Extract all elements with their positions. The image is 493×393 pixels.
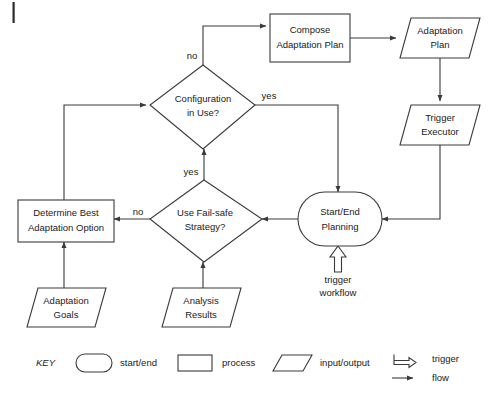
node-start-end-planning-line1: Start/End xyxy=(320,206,360,217)
node-adaptation-plan-line2: Plan xyxy=(430,39,449,50)
key-block-arrow-icon xyxy=(394,355,416,368)
edge-label-failsafe-no: no xyxy=(133,206,144,217)
edge-label-config-no: no xyxy=(187,50,198,61)
key-rectangle-icon xyxy=(178,355,212,371)
node-trigger-executor-line2: Executor xyxy=(421,126,459,137)
edge-trigger-executor-to-planning xyxy=(382,145,440,219)
node-analysis-results-line2: Results xyxy=(185,309,217,320)
node-compose-adaptation-plan-line2: Adaptation Plan xyxy=(276,39,343,50)
key-item-label-input-output: input/output xyxy=(320,357,370,368)
key-item-label-start-end: start/end xyxy=(120,357,157,368)
trigger-block-arrow-icon xyxy=(330,246,346,272)
key-item-label-process: process xyxy=(222,357,256,368)
trigger-annotation-line1: trigger xyxy=(325,274,352,285)
key-rounded-rect-icon xyxy=(76,354,112,372)
node-determine-best-adaptation-option-line1: Determine Best xyxy=(33,207,99,218)
edge-config-yes-to-planning xyxy=(255,105,338,192)
node-compose-adaptation-plan-line1: Compose xyxy=(290,24,331,35)
node-configuration-in-use-line2: in Use? xyxy=(187,107,219,118)
node-analysis-results-line1: Analysis xyxy=(183,295,219,306)
node-use-failsafe-strategy-line1: Use Fail-safe xyxy=(177,207,233,218)
key-parallelogram-icon xyxy=(273,355,312,371)
node-determine-best-adaptation-option-line2: Adaptation Option xyxy=(28,222,104,233)
node-trigger-executor-line1: Trigger xyxy=(425,112,455,123)
node-start-end-planning[interactable] xyxy=(298,192,382,246)
edge-determine-to-config xyxy=(64,105,146,200)
node-configuration-in-use-line1: Configuration xyxy=(175,93,232,104)
key-title: KEY xyxy=(36,357,56,368)
node-adaptation-plan-line1: Adaptation xyxy=(417,25,462,36)
trigger-annotation-line2: workflow xyxy=(319,287,357,298)
key-item-label-trigger: trigger xyxy=(432,353,459,364)
edge-label-failsafe-yes: yes xyxy=(184,166,199,177)
flowchart-canvas: Compose Adaptation Plan Adaptation Plan … xyxy=(0,0,493,393)
edge-config-no-to-compose xyxy=(203,26,266,65)
node-use-failsafe-strategy-line2: Strategy? xyxy=(185,221,226,232)
node-adaptation-goals-line1: Adaptation xyxy=(43,295,88,306)
edge-label-config-yes: yes xyxy=(262,90,277,101)
scan-artifact-bar xyxy=(13,2,15,23)
key-item-label-flow: flow xyxy=(432,372,449,383)
flowchart-diagram: Compose Adaptation Plan Adaptation Plan … xyxy=(0,0,493,393)
node-adaptation-goals-line2: Goals xyxy=(54,309,79,320)
node-start-end-planning-line2: Planning xyxy=(322,221,359,232)
